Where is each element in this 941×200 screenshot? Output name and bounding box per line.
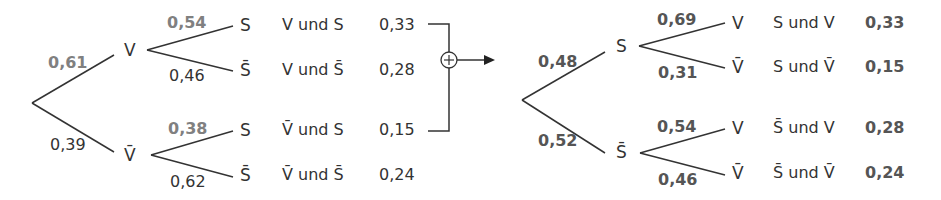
prob-s-bar-given-v-bar: 0,62 bbox=[170, 173, 206, 191]
path-prob: 0,33 bbox=[865, 14, 904, 32]
leaf-event: S bbox=[240, 16, 251, 34]
leaf-event: V bbox=[732, 14, 744, 32]
prob-v-bar-given-s-bar: 0,46 bbox=[658, 171, 697, 189]
prob-v-bar: 0,39 bbox=[50, 136, 86, 154]
path-label: V̄ und S bbox=[282, 121, 344, 139]
path-label: S̄ und V bbox=[773, 119, 835, 137]
prob-v-given-s-bar: 0,54 bbox=[657, 118, 696, 136]
circled-plus-icon bbox=[441, 52, 457, 68]
leaf-event: V bbox=[732, 119, 744, 137]
path-prob: 0,15 bbox=[865, 58, 904, 76]
node-v-bar: V̄ bbox=[124, 146, 136, 164]
leaf-event: V̄ bbox=[732, 58, 744, 76]
path-prob: 0,24 bbox=[379, 166, 415, 184]
leaf-event: V̄ bbox=[732, 164, 744, 182]
path-prob: 0,24 bbox=[865, 164, 904, 182]
prob-s-given-v: 0,54 bbox=[167, 14, 206, 32]
path-label: S und V bbox=[773, 14, 835, 32]
leaf-event: S̄ bbox=[240, 166, 251, 184]
path-label: V und S̄ bbox=[282, 61, 344, 79]
prob-v: 0,61 bbox=[48, 54, 87, 72]
path-prob: 0,28 bbox=[865, 119, 904, 137]
arrow-right-icon bbox=[484, 55, 495, 65]
path-label: V und S bbox=[282, 16, 344, 34]
node-v: V bbox=[124, 41, 136, 59]
path-label: S und V̄ bbox=[773, 58, 835, 76]
prob-s-given-v-bar: 0,38 bbox=[168, 120, 207, 138]
prob-s: 0,48 bbox=[538, 53, 577, 71]
path-prob: 0,28 bbox=[379, 61, 415, 79]
node-s: S bbox=[616, 37, 627, 55]
leaf-event: S bbox=[240, 121, 251, 139]
prob-v-bar-given-s: 0,31 bbox=[658, 64, 697, 82]
path-prob: 0,15 bbox=[379, 121, 415, 139]
path-label: S̄ und V̄ bbox=[773, 164, 835, 182]
prob-v-given-s: 0,69 bbox=[657, 11, 696, 29]
path-prob: 0,33 bbox=[379, 16, 415, 34]
prob-s-bar-given-v: 0,46 bbox=[169, 67, 205, 85]
path-label: V̄ und S̄ bbox=[282, 166, 344, 184]
node-s-bar: S̄ bbox=[616, 143, 627, 161]
leaf-event: S̄ bbox=[240, 61, 251, 79]
prob-s-bar: 0,52 bbox=[538, 132, 577, 150]
